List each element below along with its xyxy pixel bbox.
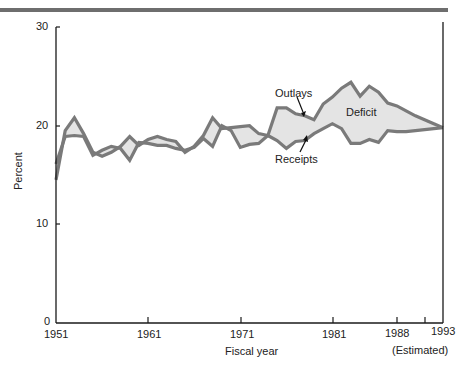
- x-tick-1961: 1961: [137, 328, 161, 340]
- y-tick-10: 10: [36, 217, 48, 229]
- x-tick-1971: 1971: [230, 328, 254, 340]
- receipts-annotation: Receipts: [275, 153, 318, 165]
- deficit-area: [56, 82, 443, 180]
- x-tick-1981: 1981: [322, 328, 346, 340]
- y-tick-20: 20: [36, 119, 48, 131]
- x-tick-1993: 1993: [431, 325, 455, 337]
- y-axis-label: Percent: [12, 152, 24, 190]
- x-axis-label: Fiscal year: [225, 345, 278, 357]
- outlays-annotation: Outlays: [275, 87, 312, 99]
- y-tick-30: 30: [36, 20, 48, 32]
- estimated-note: (Estimated): [392, 344, 448, 356]
- y-tick-0: 0: [44, 315, 50, 327]
- deficit-annotation: Deficit: [346, 106, 377, 118]
- x-tick-1988: 1988: [385, 327, 409, 339]
- x-tick-1951: 1951: [44, 328, 68, 340]
- chart-plot: [0, 0, 467, 372]
